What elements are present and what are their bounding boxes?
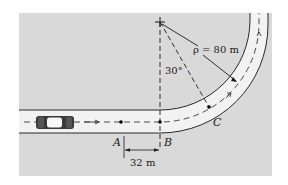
point-b-marker xyxy=(158,120,162,124)
curved-road-diagram: A B C ρ = 80 m 30° 32 m xyxy=(0,0,288,185)
point-a-marker xyxy=(119,120,123,124)
point-b-label: B xyxy=(163,136,172,149)
point-a-label: A xyxy=(112,136,121,149)
radius-label: ρ = 80 m xyxy=(193,44,240,55)
distance-ab-label: 32 m xyxy=(130,157,156,168)
point-c-marker xyxy=(207,105,211,109)
angle-label: 30° xyxy=(165,65,183,76)
car-icon xyxy=(36,116,74,129)
point-c-label: C xyxy=(213,116,222,129)
